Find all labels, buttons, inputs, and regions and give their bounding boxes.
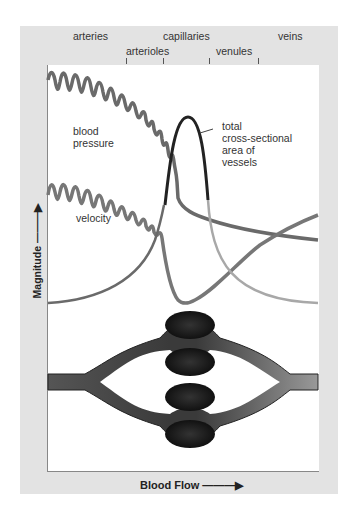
- annotation-leader: [200, 129, 213, 133]
- y-axis-label: Magnitude ———▶: [31, 204, 43, 299]
- velocity-label: velocity: [76, 212, 111, 224]
- vessel-network: [48, 311, 318, 448]
- blood-pressure-label: blood pressure: [73, 125, 114, 149]
- cross-section-label: total cross-sectional area of vessels: [222, 120, 292, 168]
- cross-section-tail: [208, 200, 318, 303]
- velocity-curve: [48, 185, 318, 303]
- cross-section-curve: [165, 117, 208, 205]
- x-axis-label: Blood Flow ———▶: [140, 479, 243, 492]
- chart-svg: [0, 0, 360, 509]
